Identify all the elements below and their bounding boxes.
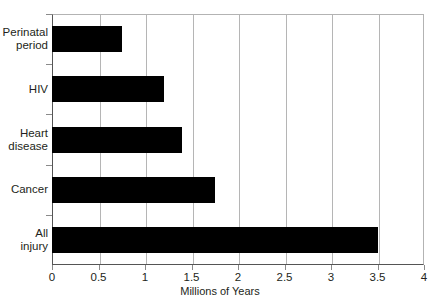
bar — [52, 127, 182, 153]
x-axis-tick — [238, 265, 239, 270]
bar — [52, 227, 378, 253]
x-axis-tick — [192, 265, 193, 270]
y-axis-category-label: Perinatal period — [0, 26, 48, 52]
y-axis-tick — [46, 64, 52, 65]
y-axis-category-label: All injury — [0, 227, 48, 253]
bar — [52, 76, 164, 102]
bar-row — [52, 177, 424, 203]
x-axis-tick — [424, 265, 425, 270]
x-axis-tick-label: 3 — [328, 271, 334, 284]
x-axis-tick-label: 2.5 — [277, 271, 293, 284]
y-axis-tick — [46, 114, 52, 115]
x-axis-tick-label: 0.5 — [91, 271, 107, 284]
y-axis-tick — [46, 215, 52, 216]
x-axis-tick-label: 1 — [142, 271, 148, 284]
bar-chart: Perinatal periodHIVHeart diseaseCancerAl… — [0, 0, 440, 301]
bar-row — [52, 26, 424, 52]
x-axis-tick-label: 2 — [235, 271, 241, 284]
x-axis-tick-label: 0 — [49, 271, 55, 284]
y-axis-labels: Perinatal periodHIVHeart diseaseCancerAl… — [0, 14, 48, 265]
x-axis-tick-label: 1.5 — [184, 271, 200, 284]
x-axis-tick — [285, 265, 286, 270]
x-axis-tick — [99, 265, 100, 270]
x-axis-tick — [331, 265, 332, 270]
y-axis-category-label: HIV — [0, 83, 48, 96]
y-axis-category-label: Heart disease — [0, 127, 48, 153]
bar — [52, 26, 122, 52]
x-axis-tick — [52, 265, 53, 270]
y-axis-category-label: Cancer — [0, 183, 48, 196]
x-axis-tick — [378, 265, 379, 270]
y-axis-tick — [46, 14, 52, 15]
bar-row — [52, 76, 424, 102]
bar-row — [52, 227, 424, 253]
bar — [52, 177, 215, 203]
x-axis-tick-label: 3.5 — [370, 271, 386, 284]
y-axis-tick — [46, 165, 52, 166]
bar-row — [52, 127, 424, 153]
x-axis-tick-label: 4 — [421, 271, 427, 284]
x-axis-title: Millions of Years — [0, 285, 440, 298]
x-axis-tick — [145, 265, 146, 270]
bars-layer — [52, 14, 424, 265]
